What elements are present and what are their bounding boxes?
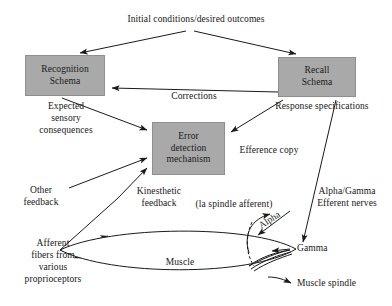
arrow-response-spec-to-muscle (303, 100, 336, 242)
label-muscle: Muscle (152, 257, 208, 269)
label-gamma: Gamma (297, 243, 343, 255)
arrow-other-feedback-to-error (69, 158, 147, 188)
label-other-feedback: Other feedback (14, 185, 68, 209)
label-afferent-fibers: Afferent fibers from various propriocept… (6, 238, 100, 286)
node-recall-schema: Recall Schema (278, 57, 356, 97)
arrow-muscle-spindle-callout (268, 277, 291, 283)
label-alpha-gamma-efferent-nerves: Alpha/Gamma Efferent nerves (307, 186, 387, 210)
node-error-detection-mechanism: Error detection mechanism (152, 122, 225, 175)
node-recognition-schema: Recognition Schema (25, 55, 105, 96)
label-efference-copy: Efference copy (229, 145, 309, 157)
arrow-initial-to-recall (194, 31, 296, 54)
label-corrections: Corrections (156, 91, 232, 103)
label-ia-spindle-afferent: (la spindle afferent) (182, 199, 286, 211)
schema-theory-diagram: Recognition Schema Recall Schema Error d… (0, 0, 392, 306)
arrow-initial-to-recognition (80, 31, 186, 53)
label-response-specifications: Response specifications (255, 101, 389, 113)
label-expected-sensory-consequences: Expected sensory consequences (16, 101, 116, 137)
label-muscle-spindle: Muscle spindle (297, 278, 381, 290)
label-initial-conditions: Initial conditions/desired outcomes (96, 14, 296, 26)
